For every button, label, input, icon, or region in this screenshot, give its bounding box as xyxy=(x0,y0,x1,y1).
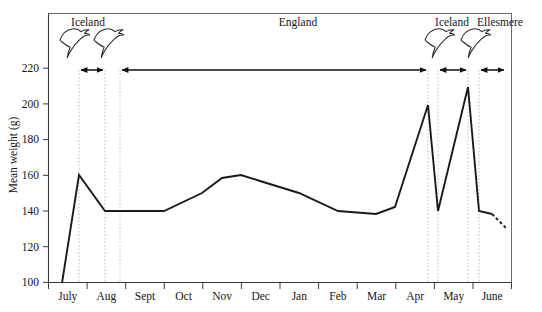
y-tick-label: 140 xyxy=(22,205,40,217)
y-tick-label: 120 xyxy=(22,241,40,253)
x-tick-label: Dec xyxy=(251,290,270,302)
x-tick-label: Nov xyxy=(212,290,232,302)
x-tick-label: Feb xyxy=(329,290,347,302)
y-axis-title: Mean weight (g) xyxy=(7,117,20,194)
region-label-ellesmere: Ellesmere xyxy=(477,16,523,28)
dotted-guides xyxy=(79,70,479,282)
bird-icon xyxy=(425,29,455,58)
region-label-iceland-left: Iceland xyxy=(71,16,105,28)
data-line-projection xyxy=(492,214,506,228)
x-tick-label: Apr xyxy=(406,290,424,303)
y-tick-label: 200 xyxy=(22,98,40,110)
x-tick-label: Jan xyxy=(292,290,308,302)
x-tick-label: July xyxy=(58,290,77,303)
y-tick-label: 100 xyxy=(22,276,40,288)
region-label-england: England xyxy=(279,16,318,29)
y-tick-label: 220 xyxy=(22,62,40,74)
x-tick-label: Mar xyxy=(367,290,386,302)
plot-frame xyxy=(49,14,512,283)
x-tick-label: Oct xyxy=(175,290,192,302)
y-tick-label: 180 xyxy=(22,133,40,145)
y-axis: 220 200 180 160 140 120 100 xyxy=(22,14,49,289)
x-ticks xyxy=(49,283,512,290)
x-tick-label: Aug xyxy=(96,290,116,303)
region-label-iceland-right: Iceland xyxy=(435,16,469,28)
x-tick-label: May xyxy=(443,290,464,303)
x-tick-labels: July Aug Sept Oct Nov Dec Jan Feb Mar Ap… xyxy=(58,290,503,303)
chart-container: 220 200 180 160 140 120 100 Mean weight … xyxy=(0,0,542,312)
x-tick-label: June xyxy=(482,290,503,302)
x-axis: July Aug Sept Oct Nov Dec Jan Feb Mar Ap… xyxy=(49,283,512,303)
y-tick-label: 160 xyxy=(22,169,40,181)
bird-icon xyxy=(60,29,90,58)
chart-svg: 220 200 180 160 140 120 100 Mean weight … xyxy=(0,0,542,312)
bird-icon xyxy=(94,29,124,58)
bird-icon xyxy=(461,29,491,58)
x-tick-label: Sept xyxy=(135,290,156,303)
